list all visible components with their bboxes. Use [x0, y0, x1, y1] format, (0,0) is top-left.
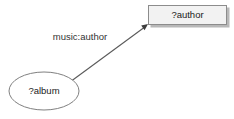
graph-svg: ?author ?album music:author: [0, 0, 234, 119]
node-album[interactable]: ?album: [9, 72, 79, 110]
diagram-canvas: ?author ?album music:author: [0, 0, 234, 119]
node-author[interactable]: ?author: [149, 6, 230, 28]
node-author-label: ?author: [171, 9, 203, 20]
node-album-label: ?album: [28, 85, 59, 96]
edge-label-music-author: music:author: [53, 31, 107, 42]
